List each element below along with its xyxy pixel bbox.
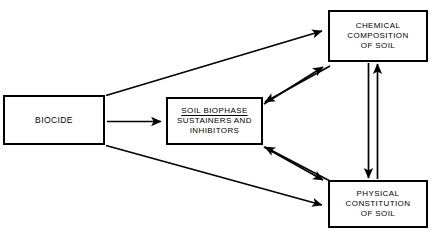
node-chemical-composition-line-1: CHEMICAL bbox=[356, 21, 401, 31]
node-biocide[interactable]: BIOCIDE bbox=[3, 95, 105, 145]
connector-soil-biophase-to-physical bbox=[264, 147, 323, 180]
node-physical-constitution-line-3: OF SOIL bbox=[361, 209, 395, 219]
diagram-canvas: BIOCIDE SOIL BIOPHASE SUSTAINERS AND INH… bbox=[0, 0, 432, 233]
node-physical-constitution-line-2: CONSTITUTION bbox=[346, 199, 411, 209]
node-chemical-composition-line-2: COMPOSITION bbox=[347, 31, 408, 41]
connector-biocide-to-chemical bbox=[106, 31, 322, 96]
connector-chemical-to-soil-biophase bbox=[265, 66, 330, 102]
node-soil-biophase[interactable]: SOIL BIOPHASE SUSTAINERS AND INHIBITORS bbox=[166, 97, 263, 145]
node-physical-constitution-line-1: PHYSICAL bbox=[357, 189, 400, 199]
node-soil-biophase-line-2: SUSTAINERS AND bbox=[177, 116, 252, 126]
node-biocide-line-1: BIOCIDE bbox=[35, 115, 73, 126]
node-chemical-composition-line-3: OF SOIL bbox=[361, 41, 395, 51]
node-soil-biophase-line-1: SOIL BIOPHASE bbox=[181, 106, 247, 116]
node-physical-constitution[interactable]: PHYSICAL CONSTITUTION OF SOIL bbox=[328, 180, 428, 228]
node-soil-biophase-line-3: INHIBITORS bbox=[190, 126, 240, 136]
node-chemical-composition[interactable]: CHEMICAL COMPOSITION OF SOIL bbox=[328, 10, 428, 62]
connector-biocide-to-physical bbox=[106, 146, 322, 206]
